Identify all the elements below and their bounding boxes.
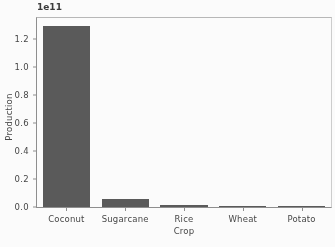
y-axis-tick-mark <box>33 123 36 124</box>
bars-group <box>37 18 331 207</box>
x-axis-tick-label: Coconut <box>48 214 85 224</box>
bar-rice <box>160 205 207 207</box>
x-axis-tick-label: Potato <box>287 214 315 224</box>
y-axis-tick-label: 0.4 <box>15 146 29 156</box>
bar-coconut <box>43 26 90 207</box>
bar-chart-figure: 1e11 0.00.20.40.60.81.01.2 Production Co… <box>0 0 335 247</box>
x-axis-tick-mark <box>125 208 126 211</box>
y-axis-tick-mark <box>33 179 36 180</box>
y-axis-tick-mark <box>33 151 36 152</box>
y-axis-tick-label: 0.6 <box>15 118 29 128</box>
x-axis-tick-mark <box>302 208 303 211</box>
x-axis-tick-label: Rice <box>175 214 194 224</box>
bar-wheat <box>219 206 266 207</box>
y-axis-tick-label: 0.8 <box>15 90 29 100</box>
y-axis-tick-mark <box>33 39 36 40</box>
bar-potato <box>278 206 325 207</box>
x-axis-tick-label: Sugarcane <box>102 214 149 224</box>
y-axis-tick-mark <box>33 207 36 208</box>
bar-sugarcane <box>102 199 149 207</box>
y-axis-tick-mark <box>33 67 36 68</box>
x-axis-label: Crop <box>37 226 331 236</box>
y-axis-tick-mark <box>33 95 36 96</box>
y-axis-label: Production <box>4 82 14 152</box>
y-axis-offset-label: 1e11 <box>37 2 62 13</box>
y-axis-tick-label: 1.0 <box>15 62 29 72</box>
y-axis-tick-label: 1.2 <box>15 34 29 44</box>
x-axis-tick-label: Wheat <box>229 214 258 224</box>
y-axis-tick-label: 0.0 <box>15 202 29 212</box>
y-axis-tick-label: 0.2 <box>15 174 29 184</box>
x-axis-tick-mark <box>243 208 244 211</box>
x-axis-tick-mark <box>184 208 185 211</box>
x-axis-tick-mark <box>66 208 67 211</box>
